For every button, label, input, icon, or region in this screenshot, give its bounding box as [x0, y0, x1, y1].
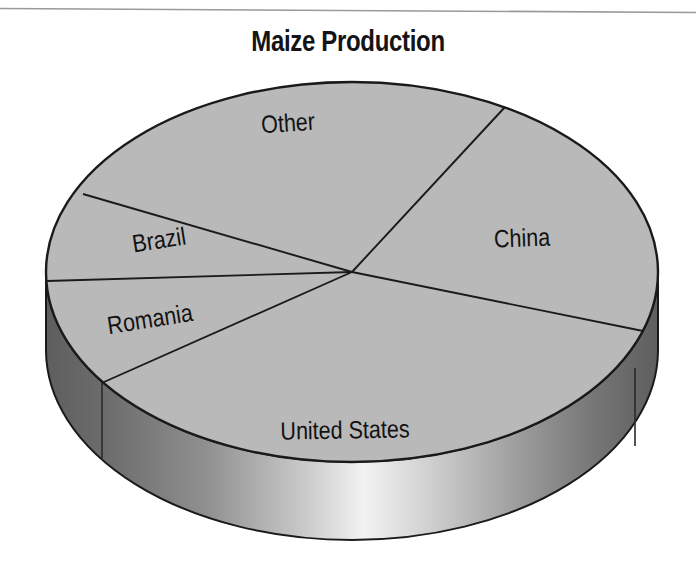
pie-top-face — [46, 82, 658, 462]
slice-label-united-states: United States — [280, 414, 410, 445]
slice-label-china: China — [493, 223, 550, 254]
pie-chart-3d — [0, 0, 696, 572]
figure-canvas: Maize Production — [0, 0, 696, 572]
slice-label-other: Other — [260, 107, 316, 140]
